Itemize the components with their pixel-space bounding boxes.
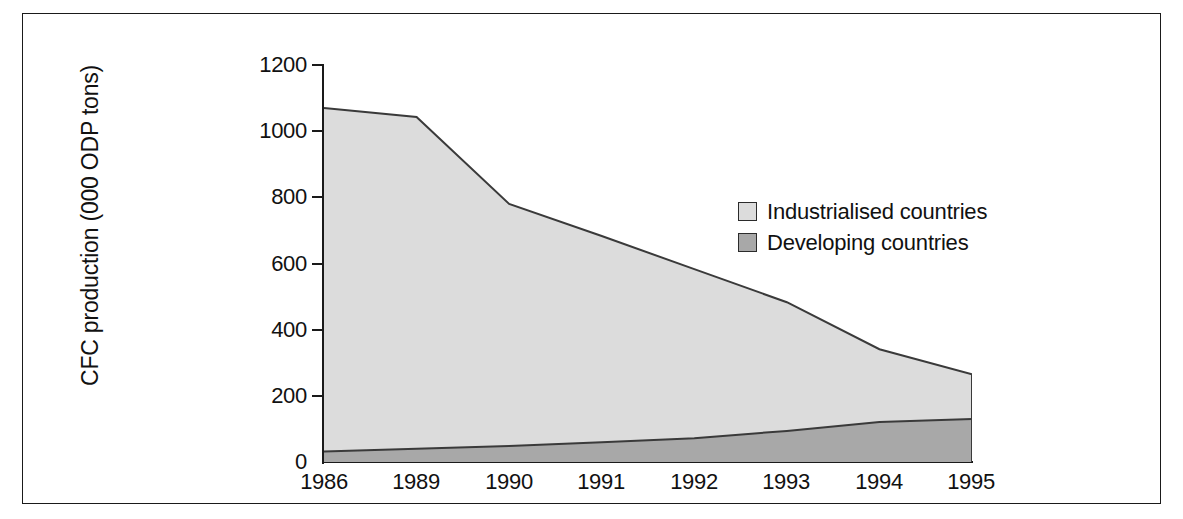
y-tick-label-600: 600 <box>235 253 307 275</box>
x-tick-label-1995: 1995 <box>916 470 1026 494</box>
area-industrialised-countries <box>324 108 972 451</box>
y-tick-label-400: 400 <box>235 319 307 341</box>
chart-figure: CFC production (000 ODP tons) 1200 1000 … <box>0 0 1183 519</box>
legend-swatch-industrialised <box>738 202 757 221</box>
legend-label-industrialised: Industrialised countries <box>767 199 987 225</box>
y-tick-label-200: 200 <box>235 385 307 407</box>
legend-item-industrialised-countries: Industrialised countries <box>738 196 1038 227</box>
y-axis-title: CFC production (000 ODP tons) <box>77 16 104 436</box>
plot-area <box>324 59 972 463</box>
legend-swatch-developing <box>738 233 757 252</box>
legend-label-developing: Developing countries <box>767 230 968 256</box>
y-tick-label-800: 800 <box>235 186 307 208</box>
y-tick-label-1000: 1000 <box>235 120 307 142</box>
stacked-area-series <box>324 59 972 463</box>
legend-item-developing-countries: Developing countries <box>738 227 1038 258</box>
chart-legend: Industrialised countries Developing coun… <box>738 196 1038 258</box>
y-tick-label-1200: 1200 <box>235 54 307 76</box>
y-axis-tick-labels: 1200 1000 800 600 400 200 0 <box>223 14 307 474</box>
figure-border: CFC production (000 ODP tons) 1200 1000 … <box>22 13 1161 504</box>
